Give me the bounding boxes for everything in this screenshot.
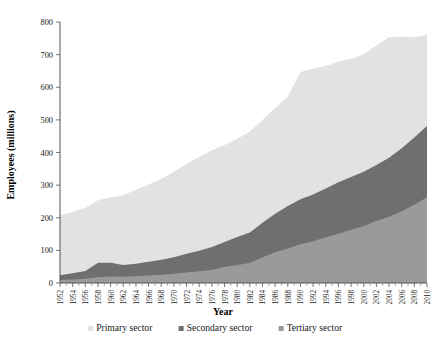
x-tick-label: 1978 bbox=[222, 290, 230, 305]
legend-swatch-secondary-sector bbox=[179, 326, 184, 331]
x-tick-label: 1954 bbox=[70, 290, 78, 305]
x-tick-label: 1988 bbox=[285, 290, 293, 305]
legend-swatch-tertiary-sector bbox=[279, 326, 284, 331]
x-tick-label: 1958 bbox=[95, 290, 103, 305]
x-tick-label: 1982 bbox=[247, 290, 255, 305]
y-tick-label: 800 bbox=[40, 18, 53, 27]
y-tick-label: 100 bbox=[40, 246, 53, 255]
y-axis-title: Employees (millions) bbox=[5, 110, 17, 199]
stacked-area-chart: 0100200300400500600700800 19521954195619… bbox=[0, 0, 446, 350]
x-tick-label: 1972 bbox=[184, 290, 192, 305]
chart-legend: Primary sectorSecondary sectorTertiary s… bbox=[88, 322, 343, 333]
x-tick-label: 1976 bbox=[209, 290, 217, 305]
legend-label-primary-sector: Primary sector bbox=[96, 322, 153, 333]
y-tick-label: 700 bbox=[40, 51, 53, 60]
legend-swatch-primary-sector bbox=[88, 326, 93, 331]
x-tick-label: 1952 bbox=[57, 290, 65, 305]
legend-label-secondary-sector: Secondary sector bbox=[187, 322, 254, 333]
x-tick-label: 1960 bbox=[108, 290, 116, 305]
x-tick-label: 1980 bbox=[234, 290, 242, 305]
x-tick-label: 1966 bbox=[146, 290, 154, 305]
x-tick-label: 1998 bbox=[348, 290, 356, 305]
x-axis-title: Year bbox=[213, 306, 234, 317]
y-tick-label: 600 bbox=[40, 83, 53, 92]
x-tick-label: 1968 bbox=[158, 290, 166, 305]
x-tick-label: 2002 bbox=[373, 290, 381, 305]
x-tick-label: 1996 bbox=[335, 290, 343, 305]
x-tick-label: 1994 bbox=[323, 290, 331, 305]
x-tick-label: 1992 bbox=[310, 290, 318, 305]
area-series-group bbox=[60, 35, 427, 283]
x-tick-label: 2008 bbox=[411, 290, 419, 305]
x-tick-label: 1984 bbox=[259, 290, 267, 305]
y-axis-ticks: 0100200300400500600700800 bbox=[40, 18, 60, 288]
y-tick-label: 400 bbox=[40, 149, 53, 158]
x-tick-label: 1986 bbox=[272, 290, 280, 305]
x-tick-label: 1964 bbox=[133, 290, 141, 305]
x-tick-label: 1974 bbox=[196, 290, 204, 305]
x-tick-label: 2004 bbox=[386, 290, 394, 305]
x-tick-label: 2000 bbox=[361, 290, 369, 305]
x-axis-ticks: 1952195419561958196019621964196619681970… bbox=[57, 283, 432, 304]
x-tick-label: 1990 bbox=[297, 290, 305, 305]
x-tick-label: 1970 bbox=[171, 290, 179, 305]
x-tick-label: 1956 bbox=[82, 290, 90, 305]
y-tick-label: 0 bbox=[49, 279, 53, 288]
y-tick-label: 200 bbox=[40, 214, 53, 223]
x-tick-label: 2010 bbox=[424, 290, 432, 305]
legend-label-tertiary-sector: Tertiary sector bbox=[287, 322, 343, 333]
y-tick-label: 300 bbox=[40, 181, 53, 190]
chart-canvas: 0100200300400500600700800 19521954195619… bbox=[0, 0, 446, 350]
x-tick-label: 2006 bbox=[399, 290, 407, 305]
x-tick-label: 1962 bbox=[120, 290, 128, 305]
y-tick-label: 500 bbox=[40, 116, 53, 125]
